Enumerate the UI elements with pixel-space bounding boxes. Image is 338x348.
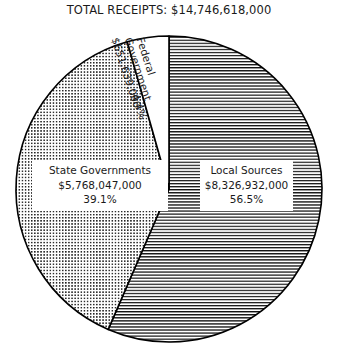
pie-label-state-governments-percent: 39.1% [32,192,168,207]
pie-label-local-sources-value: $8,326,932,000 [200,178,293,193]
pie-label-state-governments: State Governments $5,768,047,000 39.1% [32,160,168,211]
pie-label-state-governments-value: $5,768,047,000 [32,178,168,193]
pie-label-local-sources-name: Local Sources [200,163,293,178]
pie-chart-figure: TOTAL RECEIPTS: $14,746,618,000 State Go… [0,0,338,348]
pie-label-local-sources-percent: 56.5% [200,192,293,207]
pie-label-local-sources: Local Sources $8,326,932,000 56.5% [200,160,293,211]
pie-label-state-governments-name: State Governments [32,163,168,178]
